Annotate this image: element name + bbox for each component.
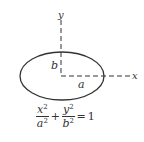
exponent: 2 xyxy=(43,103,47,111)
fraction-x-over-a: x2 a2 xyxy=(36,104,49,129)
equals-sign: = xyxy=(77,110,86,123)
semi-minor-label: b xyxy=(51,59,58,72)
semi-major-label: a xyxy=(78,78,85,91)
x-axis-label: x xyxy=(132,70,138,81)
equation-rhs: 1 xyxy=(88,110,95,123)
exponent: 2 xyxy=(69,103,73,111)
denominator-b: b xyxy=(62,117,69,130)
plus-sign: + xyxy=(51,110,60,123)
fraction-y-over-b: y2 b2 xyxy=(62,104,75,129)
ellipse-equation: x2 a2 + y2 b2 = 1 xyxy=(36,104,95,129)
exponent: 2 xyxy=(43,117,47,125)
exponent: 2 xyxy=(70,117,74,125)
y-axis-label: y xyxy=(57,9,64,20)
